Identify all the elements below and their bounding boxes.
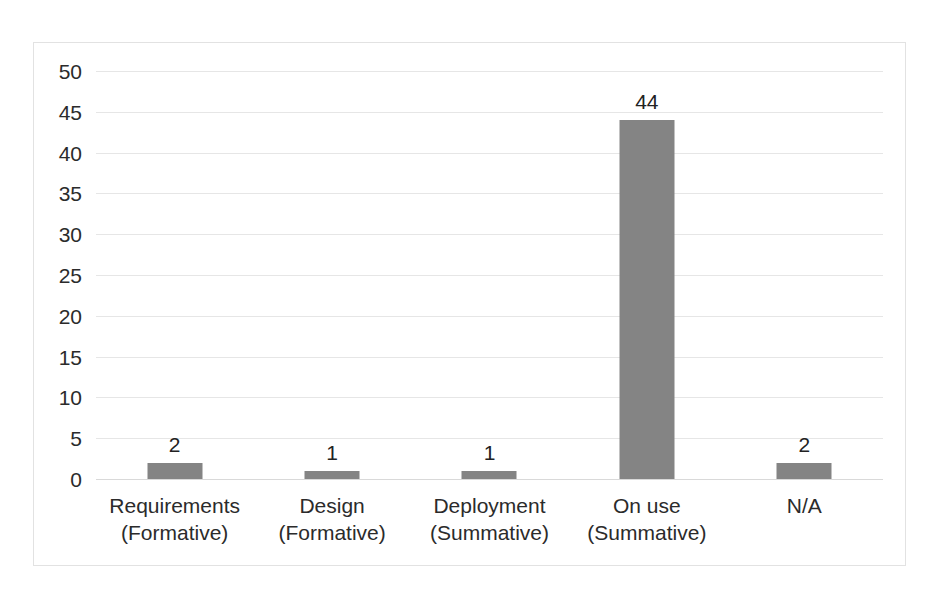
y-tick-label-35: 35 — [59, 183, 82, 204]
bar-value-design: 1 — [326, 442, 338, 463]
gridline-0-baseline — [96, 479, 883, 480]
bar-value-deployment: 1 — [484, 442, 496, 463]
y-tick-label-45: 45 — [59, 101, 82, 122]
bar-slot-deployment: 1 Deployment (Summative) — [411, 71, 568, 479]
y-tick-label-30: 30 — [59, 224, 82, 245]
category-label-deployment-line2: (Summative) — [430, 520, 549, 547]
bar-series: 2 Requirements (Formative) 1 Design (For… — [96, 71, 883, 479]
bar-deployment[interactable] — [462, 471, 517, 479]
bar-na[interactable] — [777, 463, 832, 479]
bar-slot-na: 2 N/A — [726, 71, 883, 479]
category-label-on-use-line2: (Summative) — [587, 520, 706, 547]
category-label-deployment: Deployment (Summative) — [430, 493, 549, 547]
category-label-na: N/A — [787, 493, 822, 520]
category-label-na-line1: N/A — [787, 494, 822, 517]
bar-slot-design: 1 Design (Formative) — [253, 71, 410, 479]
category-label-on-use-line1: On use — [613, 494, 681, 517]
category-label-deployment-line1: Deployment — [433, 494, 545, 517]
y-tick-label-25: 25 — [59, 265, 82, 286]
bar-value-na: 2 — [798, 434, 810, 455]
y-tick-label-40: 40 — [59, 142, 82, 163]
category-label-requirements: Requirements (Formative) — [109, 493, 240, 547]
y-tick-label-0: 0 — [70, 469, 82, 490]
plot-area: 50 45 40 35 30 25 20 15 10 5 0 2 Require… — [96, 71, 883, 479]
bar-slot-on-use: 44 On use (Summative) — [568, 71, 725, 479]
bar-value-on-use: 44 — [635, 91, 658, 112]
bar-slot-requirements: 2 Requirements (Formative) — [96, 71, 253, 479]
y-tick-label-15: 15 — [59, 346, 82, 367]
y-tick-label-10: 10 — [59, 387, 82, 408]
category-label-on-use: On use (Summative) — [587, 493, 706, 547]
category-label-design: Design (Formative) — [278, 493, 385, 547]
y-tick-label-5: 5 — [70, 428, 82, 449]
bar-on-use[interactable] — [619, 120, 674, 479]
category-label-requirements-line2: (Formative) — [109, 520, 240, 547]
bar-requirements[interactable] — [147, 463, 202, 479]
category-label-design-line2: (Formative) — [278, 520, 385, 547]
category-label-design-line1: Design — [299, 494, 364, 517]
y-tick-label-50: 50 — [59, 61, 82, 82]
bar-value-requirements: 2 — [169, 434, 181, 455]
chart-frame: 50 45 40 35 30 25 20 15 10 5 0 2 Require… — [33, 42, 906, 566]
category-label-requirements-line1: Requirements — [109, 494, 240, 517]
y-tick-label-20: 20 — [59, 305, 82, 326]
bar-design[interactable] — [305, 471, 360, 479]
